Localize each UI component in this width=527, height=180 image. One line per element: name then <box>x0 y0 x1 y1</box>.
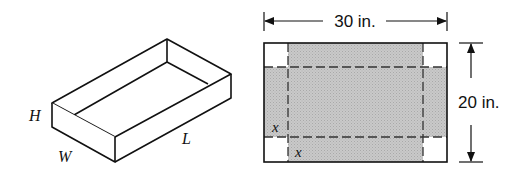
sheet-shaded-area <box>264 43 447 162</box>
width-label: 30 in. <box>334 12 376 31</box>
cut-label-horizontal: x <box>294 144 302 160</box>
height-label: 20 in. <box>458 93 500 112</box>
box-label-height: H <box>28 107 42 124</box>
corner-cutout-top-left <box>264 43 288 67</box>
corner-cutout-bottom-right <box>423 137 447 162</box>
cut-label-vertical: x <box>271 119 279 135</box>
corner-cutout-top-right <box>423 43 447 67</box>
corner-cutout-bottom-left <box>264 137 288 162</box>
diagram-canvas: H W L x x 30 in. <box>0 0 527 180</box>
box-label-width: W <box>58 148 73 165</box>
open-box-figure: H W L <box>28 39 231 165</box>
sheet-figure: x x 30 in. 20 in. <box>264 12 500 162</box>
box-label-length: L <box>181 130 191 147</box>
